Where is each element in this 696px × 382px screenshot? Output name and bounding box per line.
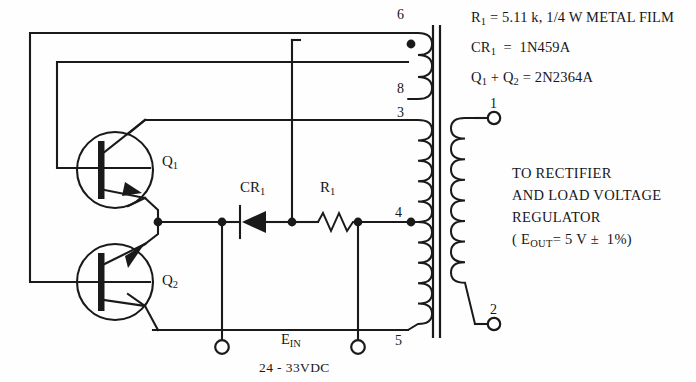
terminal-number-4: 4 xyxy=(395,206,402,220)
diode-cr1 xyxy=(240,206,266,238)
transformer-primary-upper-winding xyxy=(408,120,432,222)
schematic-page: .w { stroke: #1a1a1a; stroke-width: 2.1;… xyxy=(0,0,696,382)
terminal-number-8: 8 xyxy=(397,82,404,96)
note-cr1: CR1 = 1N459A xyxy=(471,40,570,55)
terminal-2-circle xyxy=(488,318,500,330)
terminal-number-3: 3 xyxy=(397,106,404,120)
wire-q1-collector-to-terminal-3 xyxy=(128,120,408,134)
destination-line-3: REGULATOR xyxy=(512,210,601,225)
input-terminal-negative-circle xyxy=(351,340,365,354)
destination-output-voltage: ( EOUT= 5 V ± 1%) xyxy=(512,232,632,247)
wire-center-tap-drop xyxy=(292,40,300,222)
diode-cr1-caption: CR1 xyxy=(240,180,265,195)
wire-outer-feedback-loop xyxy=(30,33,408,282)
terminal-number-2: 2 xyxy=(490,303,497,317)
transformer-core xyxy=(433,25,440,338)
wire-q2-emitter xyxy=(128,294,158,330)
transistor-q2-caption: Q2 xyxy=(162,273,178,288)
input-voltage-label: EIN xyxy=(281,332,301,347)
junction-dots xyxy=(154,40,416,227)
destination-line-1: TO RECTIFIER xyxy=(512,166,612,181)
terminal-number-5: 5 xyxy=(395,334,402,348)
input-voltage-range: 24 - 33VDC xyxy=(259,361,330,375)
wire-inner-feedback-loop xyxy=(57,62,408,168)
input-terminal-positive-circle xyxy=(215,340,229,354)
note-r1: R1 = 5.11 k, 1/4 W METAL FILM xyxy=(471,10,674,25)
terminal-number-1: 1 xyxy=(490,97,497,111)
transformer-secondary-winding xyxy=(451,118,489,324)
resistor-r1 xyxy=(318,213,358,231)
transistor-q1 xyxy=(77,120,153,208)
transformer-primary-lower-winding xyxy=(408,222,432,330)
terminal-number-6: 6 xyxy=(397,8,404,22)
terminal-1-circle xyxy=(488,112,500,124)
note-transistors: Q1 + Q2 = 2N2364A xyxy=(471,70,593,85)
resistor-r1-caption: R1 xyxy=(320,180,335,195)
destination-line-2: AND LOAD VOLTAGE xyxy=(512,188,661,203)
transistor-q1-caption: Q1 xyxy=(162,154,178,169)
wire-q1-emitter xyxy=(128,198,158,222)
